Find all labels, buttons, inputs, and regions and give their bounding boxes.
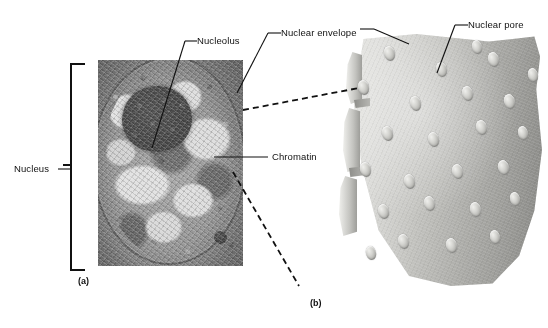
membrane-flap-lower [339, 176, 357, 236]
label-nucleus: Nucleus [14, 164, 49, 174]
label-chromatin: Chromatin [272, 152, 317, 162]
nuclear-pore [364, 245, 377, 261]
label-nuclear-pore: Nuclear pore [468, 20, 524, 30]
expansion-line-top [243, 88, 359, 110]
caption-panel-a: (a) [78, 276, 89, 286]
nuclear-envelope-sheet [352, 34, 542, 286]
nucleus-bracket-tick [63, 164, 72, 166]
label-nuclear-envelope: Nuclear envelope [281, 28, 357, 38]
caption-panel-b: (b) [310, 298, 322, 308]
micrograph-tint [98, 60, 243, 266]
nucleus-bracket [70, 63, 85, 271]
membrane-flap-middle [343, 108, 360, 172]
label-nucleolus: Nucleolus [197, 36, 240, 46]
electron-micrograph-nucleus [98, 60, 243, 266]
membrane-flap-upper [346, 52, 362, 104]
figure-nucleus-and-nuclear-envelope: Nucleus Nucleolus Nuclear envelope Chrom… [0, 0, 548, 328]
